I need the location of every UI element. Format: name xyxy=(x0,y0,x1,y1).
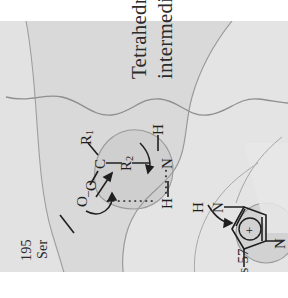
diagram-canvas: N H N + H N H R2 C R1 O –O His 57 Ser 19… xyxy=(0,0,288,298)
label-ser-195-line2: 195 xyxy=(20,239,35,261)
atom-amide-h: H xyxy=(150,124,167,135)
caption-intermediate: intermediate xyxy=(154,0,178,79)
atom-his-n-top: N xyxy=(210,202,227,213)
atom-his-h-top: H xyxy=(190,202,207,213)
ring-charge-plus: + xyxy=(242,227,258,234)
caption-tetrahedral: Tetrahedral xyxy=(128,0,152,79)
atom-his-n-bottom: N xyxy=(272,238,288,249)
atom-amide-n: N xyxy=(159,158,176,169)
atom-r2: R2 xyxy=(118,156,135,171)
atom-ser-o: O xyxy=(74,196,91,207)
atom-bridging-h: H xyxy=(159,198,176,209)
label-ser-195-line1: Ser xyxy=(36,240,51,259)
atom-r1: R1 xyxy=(78,130,95,145)
bottom-white-margin xyxy=(0,272,288,298)
enzyme-surface-figure: N H N + H N H R2 C R1 O –O His 57 Ser 19… xyxy=(0,21,288,293)
atom-oxyanion-o: –O xyxy=(80,180,100,197)
atom-carbonyl-c: C xyxy=(92,159,109,169)
